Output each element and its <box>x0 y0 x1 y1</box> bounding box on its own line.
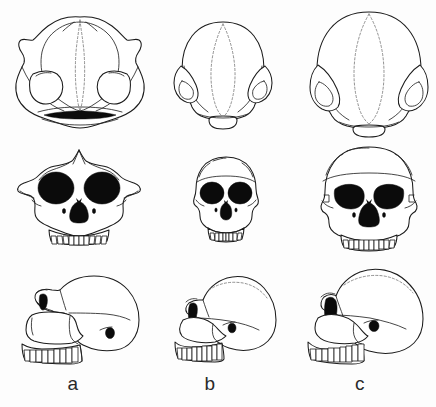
skull-c-lateral-teeth <box>310 344 364 362</box>
skull-b-teeth <box>210 233 242 241</box>
figure-label-c: c <box>340 372 380 396</box>
skull-a-lateral-view <box>12 268 148 368</box>
figure-label-a: a <box>53 372 93 396</box>
skull-b-anterior-view <box>183 155 269 245</box>
skull-c-lateral-view <box>298 266 432 368</box>
skull-a-superior-view <box>8 12 152 134</box>
skull-b-superior-view <box>168 18 278 133</box>
figure-label-row: a b c <box>0 372 436 402</box>
skull-a-teeth <box>51 236 107 245</box>
skull-a-anterior-view <box>14 148 144 253</box>
figure-label-b: b <box>190 372 230 396</box>
skull-c-anterior-view <box>313 145 425 253</box>
skull-b-lateral-view <box>165 272 285 366</box>
skull-c-superior-view <box>305 8 433 136</box>
skull-comparison-plate: a b c <box>0 0 436 407</box>
skull-c-teeth <box>343 240 395 250</box>
